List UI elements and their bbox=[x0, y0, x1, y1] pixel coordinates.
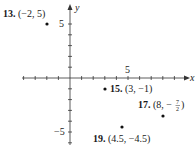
point-17-label-close: ) bbox=[181, 99, 184, 111]
point-19-label: 19. (4.5, −4.5) bbox=[93, 133, 150, 145]
point-15 bbox=[103, 87, 106, 90]
x-axis-label: x bbox=[189, 72, 195, 83]
y-tick-label-5: 5 bbox=[59, 18, 64, 29]
y-tick-label-neg5: −5 bbox=[54, 126, 65, 137]
point-15-label: 15. (3, −1) bbox=[110, 83, 152, 95]
point-17-frac-num: 7 bbox=[176, 99, 179, 105]
coordinate-plane: y x 5 5 −5 13. (−2, 5) 15. (3, −1) 17. (… bbox=[0, 0, 196, 147]
x-tick-label-5: 5 bbox=[125, 64, 130, 75]
point-13 bbox=[45, 22, 48, 25]
point-13-label: 13. (−2, 5) bbox=[3, 8, 45, 20]
y-axis-arrow-icon bbox=[68, 4, 73, 10]
point-17-label: 17. (8, − bbox=[138, 99, 172, 111]
point-17-frac-den: 2 bbox=[176, 106, 179, 112]
point-19 bbox=[120, 125, 123, 128]
point-17 bbox=[161, 114, 164, 117]
y-axis-label: y bbox=[74, 2, 80, 13]
